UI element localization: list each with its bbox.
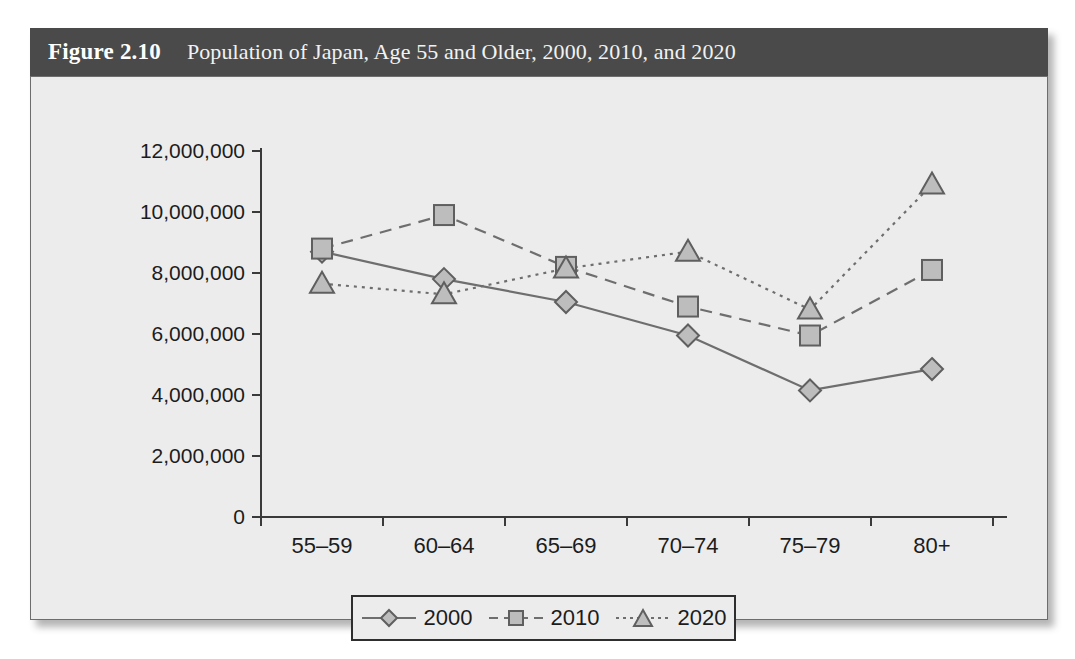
data-point-2010-60–64 (434, 205, 454, 225)
legend-label-2010: 2010 (551, 605, 600, 631)
x-tick-label: 55–59 (291, 533, 352, 558)
legend-item-2020: 2020 (615, 605, 727, 631)
data-point-2020-75–79 (798, 298, 822, 319)
figure-card: Figure 2.10 Population of Japan, Age 55 … (30, 28, 1048, 620)
data-point-2010-80+ (922, 260, 942, 280)
legend-swatch-square-icon (488, 607, 544, 629)
y-tick-label: 4,000,000 (152, 383, 245, 406)
data-point-2010-75–79 (800, 326, 820, 346)
figure-number: Figure 2.10 (48, 39, 161, 65)
x-tick-label: 70–74 (657, 533, 718, 558)
chart-svg: 12,000,00010,000,0008,000,0006,000,0004,… (31, 77, 1049, 621)
series-line-2010 (322, 215, 932, 335)
series-line-2000 (322, 252, 932, 391)
y-tick-label: 0 (233, 505, 245, 528)
data-point-2000-70–74 (677, 325, 699, 347)
data-point-2000-65–69 (555, 291, 577, 313)
chart-legend: 2000 2010 2020 (351, 595, 736, 641)
y-tick-label: 8,000,000 (152, 261, 245, 284)
legend-label-2020: 2020 (678, 605, 727, 631)
data-point-2010-70–74 (678, 297, 698, 317)
legend-swatch-diamond-icon (361, 607, 417, 629)
x-tick-label: 80+ (913, 533, 950, 558)
data-point-2000-75–79 (799, 379, 821, 401)
legend-item-2010: 2010 (488, 605, 600, 631)
x-tick-label: 60–64 (413, 533, 474, 558)
line-chart: 12,000,00010,000,0008,000,0006,000,0004,… (31, 77, 1049, 621)
plot-frame: 12,000,00010,000,0008,000,0006,000,0004,… (30, 76, 1048, 620)
x-tick-label: 75–79 (779, 533, 840, 558)
x-axis-tick-labels: 55–5960–6465–6970–7475–7980+ (291, 533, 950, 558)
legend-label-2000: 2000 (424, 605, 473, 631)
y-tick-label: 2,000,000 (152, 444, 245, 467)
series-lines (322, 185, 932, 391)
data-point-2020-80+ (920, 173, 944, 194)
figure-header-bar: Figure 2.10 Population of Japan, Age 55 … (30, 28, 1048, 76)
y-axis-tick-labels: 12,000,00010,000,0008,000,0006,000,0004,… (140, 139, 245, 528)
legend-item-2000: 2000 (361, 605, 473, 631)
y-tick-label: 10,000,000 (140, 200, 245, 223)
figure-caption: Population of Japan, Age 55 and Older, 2… (187, 39, 736, 65)
legend-swatch-triangle-icon (615, 607, 671, 629)
data-point-2010-55–59 (312, 239, 332, 259)
data-point-2020-70–74 (676, 240, 700, 261)
data-point-2000-80+ (921, 358, 943, 380)
y-tick-label: 12,000,000 (140, 139, 245, 162)
x-tick-label: 65–69 (535, 533, 596, 558)
y-axis-tick-marks (252, 151, 261, 517)
data-point-2020-55–59 (310, 272, 334, 293)
x-axis-tick-marks (261, 517, 993, 526)
y-tick-label: 6,000,000 (152, 322, 245, 345)
series-line-2020 (322, 185, 932, 310)
